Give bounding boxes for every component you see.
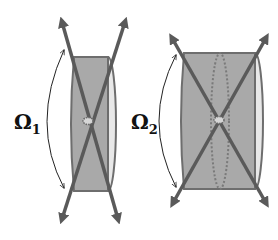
angle-arc-2 <box>159 55 176 187</box>
omega-2-symbol: Ω <box>131 110 149 134</box>
source-point-2 <box>214 117 224 124</box>
omega-2-subscript: 2 <box>149 122 158 137</box>
omega-2-label: Ω2 <box>131 112 158 136</box>
omega-1-subscript: 1 <box>32 122 41 137</box>
angle-arc-1 <box>47 50 64 188</box>
omega-1-label: Ω1 <box>14 112 41 136</box>
source-point-1 <box>83 118 93 125</box>
omega-1-symbol: Ω <box>14 110 32 134</box>
